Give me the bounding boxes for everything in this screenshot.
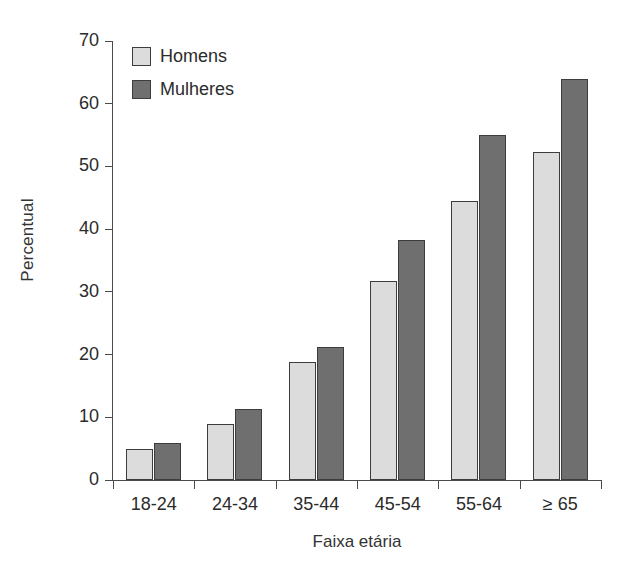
y-axis-tick-label: 40	[79, 219, 105, 237]
y-axis-tick-mark	[105, 229, 112, 230]
bar-homens[interactable]	[207, 424, 234, 480]
x-axis-tick-label: 35-44	[276, 494, 357, 515]
x-axis-title: Faixa etária	[113, 532, 601, 552]
legend-label: Mulheres	[160, 79, 234, 100]
bar-group	[357, 41, 438, 480]
bar-group	[194, 41, 275, 480]
y-axis-tick-mark	[105, 103, 112, 104]
bar-mulheres[interactable]	[154, 443, 181, 480]
x-axis-tick-label: 55-64	[438, 494, 519, 515]
bar-homens[interactable]	[533, 152, 560, 480]
plot-area	[113, 41, 601, 480]
bar-mulheres[interactable]	[479, 135, 506, 480]
x-axis-tick-mark	[601, 480, 602, 489]
x-axis-tick-mark	[520, 480, 521, 489]
y-axis: 010203040506070	[50, 41, 112, 480]
bar-group	[520, 41, 601, 480]
y-axis-tick-label: 30	[79, 282, 105, 300]
chart-legend: HomensMulheres	[132, 46, 234, 100]
bar-mulheres[interactable]	[235, 409, 262, 480]
x-axis-tick-mark	[194, 480, 195, 489]
x-axis-tick-label: 45-54	[357, 494, 438, 515]
y-axis-tick-mark	[105, 480, 112, 481]
x-axis-tick-mark	[276, 480, 277, 489]
y-axis-tick-label: 20	[79, 345, 105, 363]
bar-mulheres[interactable]	[561, 79, 588, 480]
x-axis-tick-mark	[438, 480, 439, 489]
y-axis-tick-mark	[105, 291, 112, 292]
y-axis-tick-mark	[105, 354, 112, 355]
legend-item-homens[interactable]: Homens	[132, 46, 234, 67]
legend-label: Homens	[160, 46, 227, 67]
y-axis-title: Percentual	[10, 0, 46, 480]
bar-mulheres[interactable]	[398, 240, 425, 480]
y-axis-title-text: Percentual	[18, 198, 38, 281]
y-axis-tick-mark	[105, 41, 112, 42]
bar-group	[113, 41, 194, 480]
legend-item-mulheres[interactable]: Mulheres	[132, 79, 234, 100]
x-axis-tick-label: 18-24	[113, 494, 194, 515]
legend-swatch-icon	[132, 80, 151, 99]
y-axis-tick-label: 70	[79, 31, 105, 49]
x-axis-tick-label: ≥ 65	[520, 494, 601, 515]
y-axis-tick-mark	[105, 166, 112, 167]
bar-chart: Percentual 010203040506070 18-2424-3435-…	[0, 0, 618, 578]
bar-homens[interactable]	[370, 281, 397, 480]
bar-group	[438, 41, 519, 480]
y-axis-tick-label: 60	[79, 94, 105, 112]
y-axis-tick-label: 0	[89, 470, 105, 488]
x-axis-tick-mark	[357, 480, 358, 489]
x-axis-tick-mark	[113, 480, 114, 489]
y-axis-tick-label: 10	[79, 407, 105, 425]
y-axis-tick-label: 50	[79, 156, 105, 174]
x-axis-labels: 18-2424-3435-4445-5455-64≥ 65	[113, 494, 601, 520]
bar-homens[interactable]	[126, 449, 153, 480]
bar-homens[interactable]	[451, 201, 478, 480]
y-axis-tick-mark	[105, 417, 112, 418]
bar-homens[interactable]	[289, 362, 316, 480]
bar-group	[276, 41, 357, 480]
x-axis-tick-label: 24-34	[194, 494, 275, 515]
legend-swatch-icon	[132, 47, 151, 66]
bar-mulheres[interactable]	[317, 347, 344, 480]
